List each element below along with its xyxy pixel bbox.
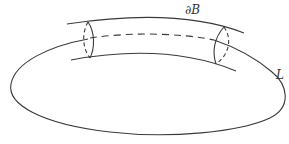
label-boundary: ∂B: [185, 3, 200, 17]
tube-around-curve-diagram: ∂B L: [0, 0, 289, 144]
right-cross-section-back: [216, 27, 229, 64]
tube-upper-boundary: [67, 18, 244, 33]
left-cross-section-front: [88, 22, 94, 58]
right-cross-section-front: [214, 27, 224, 64]
tube-lower-boundary: [71, 53, 236, 71]
core-curve-dashed: [90, 34, 214, 40]
label-curve: L: [275, 68, 284, 82]
